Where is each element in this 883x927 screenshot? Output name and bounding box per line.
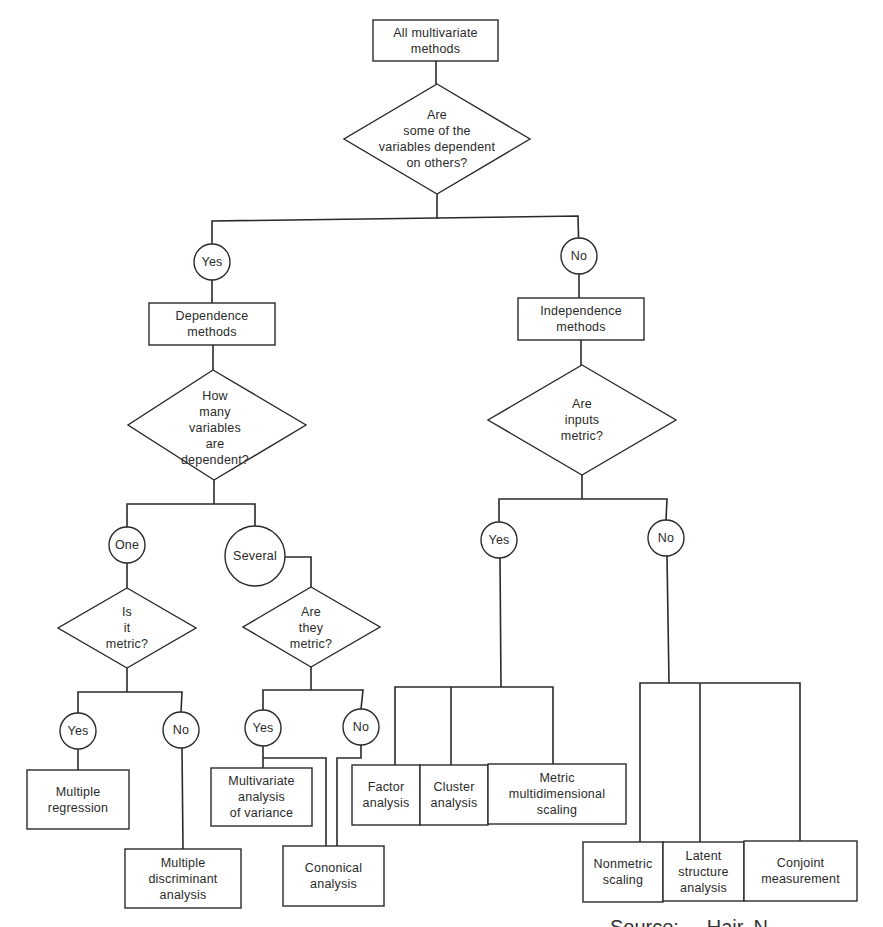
root-box [373, 20, 498, 61]
answer-yes-dependent [194, 244, 230, 280]
decision-is-it-metric [58, 588, 196, 668]
answer-one-no [163, 712, 199, 748]
decision-how-many [128, 370, 306, 480]
conjoint-box [744, 841, 857, 901]
flowchart-canvas [0, 0, 883, 927]
cluster-box [420, 765, 488, 825]
answer-inputs-yes [481, 522, 517, 558]
factor-box [352, 765, 420, 825]
answer-several-yes [245, 710, 281, 746]
answer-inputs-no [648, 520, 684, 556]
multiple-discriminant-box [125, 849, 241, 908]
clipped-source-caption: Source: ... Hair, N... [610, 912, 883, 927]
metric-mds-box [488, 764, 626, 824]
nonmetric-box [583, 842, 663, 902]
answer-no-dependent [561, 238, 597, 274]
canonical-box [283, 846, 384, 906]
manova-box [211, 768, 312, 826]
decision-are-they-metric [243, 587, 380, 667]
answer-several-no [343, 709, 379, 745]
answer-several [225, 526, 285, 586]
latent-box [663, 842, 744, 901]
answer-one [109, 527, 145, 563]
decision-inputs-metric [488, 365, 676, 475]
multiple-regression-box [27, 770, 129, 829]
decision-dependent [344, 84, 530, 194]
answer-one-yes [60, 713, 96, 749]
independence-box [518, 298, 644, 340]
dependence-box [149, 303, 275, 345]
